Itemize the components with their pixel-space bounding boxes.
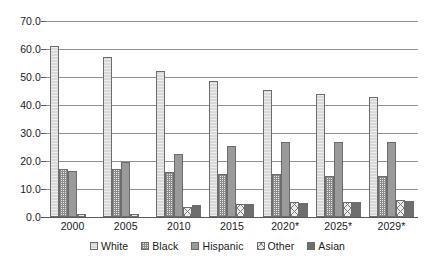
y-tick-label: 0.0 (26, 211, 41, 223)
bar (236, 204, 245, 217)
bar-group (365, 21, 418, 217)
legend-swatch-icon (307, 242, 315, 250)
bar-group (259, 21, 312, 217)
bar (183, 207, 192, 217)
legend-label: White (101, 240, 128, 252)
bar (299, 203, 308, 217)
bar (174, 154, 183, 217)
bar (369, 97, 378, 217)
legend-swatch-icon (141, 242, 149, 250)
bar-chart: 70.060.050.040.030.020.010.00.0 20002005… (0, 0, 435, 267)
bar-group (205, 21, 258, 217)
x-tick-label: 2020* (271, 220, 299, 232)
bar (352, 202, 361, 217)
bar (334, 142, 343, 217)
y-axis-tick-labels: 70.060.050.040.030.020.010.00.0 (0, 21, 41, 217)
bar (227, 146, 236, 217)
y-tick-label: 20.0 (20, 155, 41, 167)
bar (121, 162, 130, 217)
legend-label: Other (268, 240, 295, 252)
y-tick-label: 70.0 (20, 15, 41, 27)
bar (405, 201, 414, 217)
bar (156, 71, 165, 217)
y-tick-label: 50.0 (20, 71, 41, 83)
x-tick-label: 2025* (324, 220, 352, 232)
y-tick-label: 40.0 (20, 99, 41, 111)
y-tick-label: 30.0 (20, 127, 41, 139)
bar (272, 174, 281, 217)
bar (130, 214, 139, 217)
bar (50, 46, 59, 217)
bar (112, 169, 121, 217)
gridline (46, 217, 418, 218)
legend-swatch-icon (257, 242, 265, 250)
x-tick-label: 2010 (167, 220, 191, 232)
bar (103, 57, 112, 217)
bar (325, 176, 334, 217)
legend-label: Asian (318, 240, 345, 252)
bar (68, 171, 77, 217)
bar (165, 172, 174, 217)
bar (290, 202, 299, 217)
bar-group (152, 21, 205, 217)
legend-item-asian[interactable]: Asian (307, 240, 345, 252)
x-tick-label: 2015 (220, 220, 244, 232)
bar (192, 205, 201, 217)
legend-item-hispanic[interactable]: Hispanic (191, 240, 243, 252)
x-tick-label: 2000 (61, 220, 85, 232)
legend-swatch-icon (90, 242, 98, 250)
chart-legend: WhiteBlackHispanicOtherAsian (0, 240, 435, 252)
x-tick-label: 2005 (114, 220, 138, 232)
bar (263, 90, 272, 217)
bar (209, 81, 218, 217)
y-tick-label: 10.0 (20, 183, 41, 195)
y-tick-label: 60.0 (20, 43, 41, 55)
legend-item-white[interactable]: White (90, 240, 128, 252)
x-axis-tick-labels: 20002005201020152020*2025*2029* (46, 220, 418, 236)
bar (316, 94, 325, 217)
legend-label: Hispanic (202, 240, 243, 252)
plot-area (46, 21, 418, 217)
bar-group (46, 21, 99, 217)
x-tick-label: 2029* (377, 220, 405, 232)
bar (218, 174, 227, 217)
bar (343, 202, 352, 217)
legend-label: Black (152, 240, 178, 252)
legend-swatch-icon (191, 242, 199, 250)
bar (378, 176, 387, 217)
legend-item-other[interactable]: Other (257, 240, 295, 252)
bar (245, 204, 254, 217)
bar (387, 142, 396, 217)
bar-group (99, 21, 152, 217)
bar-group (312, 21, 365, 217)
bar (77, 214, 86, 217)
bar (396, 200, 405, 217)
bar (59, 169, 68, 217)
bar (281, 142, 290, 217)
y-tick-mark (41, 217, 46, 218)
legend-item-black[interactable]: Black (141, 240, 178, 252)
